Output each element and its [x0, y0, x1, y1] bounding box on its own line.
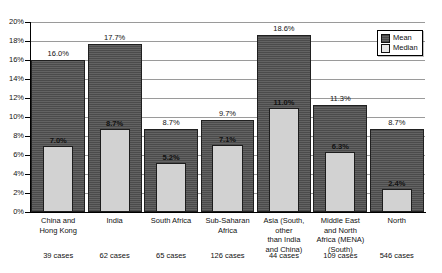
bar-median: [43, 146, 73, 213]
legend-label-median: Median: [393, 44, 418, 52]
x-axis-label-line: and North: [307, 226, 373, 236]
bar-median: [269, 108, 299, 213]
cases-label: 546 cases: [364, 252, 430, 260]
median-swatch: [381, 44, 390, 53]
x-axis-label-line: Africa (MENA): [307, 235, 373, 245]
value-label-median: 5.2%: [144, 154, 198, 162]
value-label-median: 7.1%: [201, 136, 255, 144]
value-label-median: 11.0%: [257, 99, 311, 107]
bar-median: [156, 163, 186, 212]
y-tick-label: 8%: [0, 132, 24, 140]
x-axis-label-line: North: [364, 216, 430, 226]
y-tick-label: 10%: [0, 113, 24, 121]
x-axis-line: [30, 212, 426, 213]
legend-label-mean: Mean: [393, 34, 412, 42]
y-tick-label: 4%: [0, 170, 24, 178]
value-label-mean: 8.7%: [144, 119, 198, 127]
bar-median: [212, 145, 242, 212]
bar-median: [100, 129, 130, 212]
bar-group: [257, 22, 311, 212]
bar-group: [88, 22, 142, 212]
value-label-mean: 16.0%: [31, 50, 85, 58]
value-label-mean: 8.7%: [370, 119, 424, 127]
mean-swatch: [381, 34, 390, 43]
legend-item-mean: Mean: [381, 33, 418, 43]
legend-item-median: Median: [381, 43, 418, 53]
y-tick-label: 6%: [0, 151, 24, 159]
value-label-median: 2.4%: [370, 180, 424, 188]
y-tick-label: 14%: [0, 75, 24, 83]
bar-group: [313, 22, 367, 212]
value-label-median: 6.3%: [313, 143, 367, 151]
y-tick-label: 20%: [0, 18, 24, 26]
value-label-mean: 9.7%: [201, 110, 255, 118]
value-label-median: 8.7%: [88, 120, 142, 128]
chart-legend: Mean Median: [377, 30, 423, 56]
y-tick-label: 0%: [0, 208, 24, 216]
value-label-mean: 17.7%: [88, 34, 142, 42]
chart-figure: 0%2%4%6%8%10%12%14%16%18%20% 16.0%7.0%17…: [0, 0, 442, 273]
x-axis-label: North: [364, 216, 430, 226]
y-tick-label: 2%: [0, 189, 24, 197]
value-label-mean: 11.3%: [313, 95, 367, 103]
value-label-mean: 18.6%: [257, 25, 311, 33]
plot-area: 16.0%7.0%17.7%8.7%8.7%5.2%9.7%7.1%18.6%1…: [30, 22, 425, 212]
y-tick-label: 12%: [0, 94, 24, 102]
y-tick-label: 16%: [0, 56, 24, 64]
bar-median: [325, 152, 355, 212]
bar-median: [382, 189, 412, 212]
bar-group: [144, 22, 198, 212]
y-tick-label: 18%: [0, 37, 24, 45]
value-label-median: 7.0%: [31, 137, 85, 145]
x-axis-label-line: Hong Kong: [25, 226, 91, 236]
